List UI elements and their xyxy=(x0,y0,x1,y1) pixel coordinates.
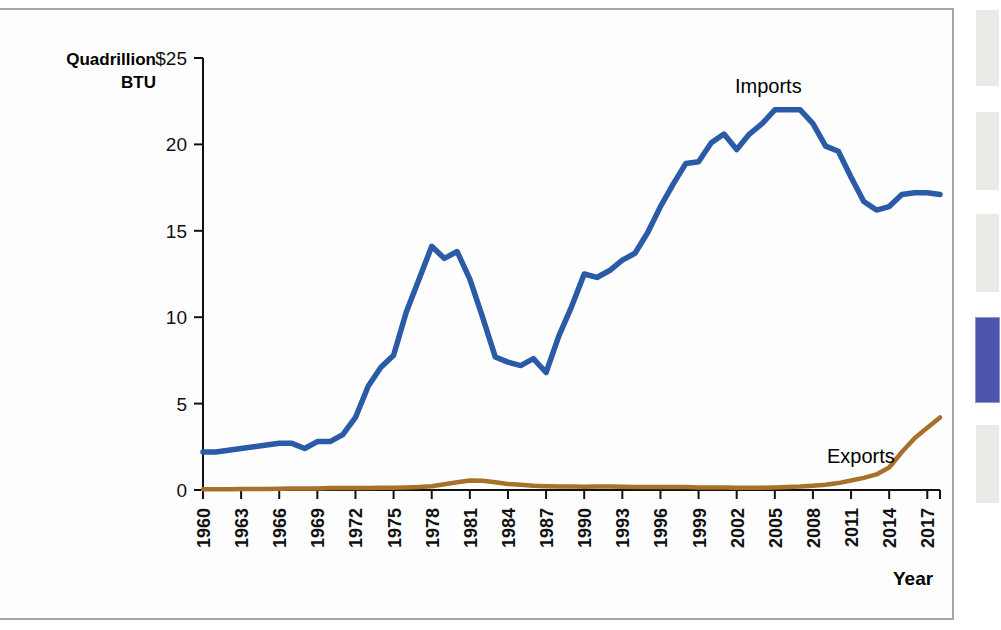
series-group xyxy=(203,110,940,489)
exports-label: Exports xyxy=(827,445,895,467)
x-tick-label: 1975 xyxy=(385,508,405,548)
x-tick-label: 2014 xyxy=(880,508,900,548)
series-annotation-group: ImportsExports xyxy=(735,75,895,467)
chart-svg: Quadrillion BTU 05101520$25 196019631966… xyxy=(0,0,958,630)
imports-label: Imports xyxy=(735,75,802,97)
y-tick-label: 15 xyxy=(166,221,187,242)
page-thumbnail-5[interactable] xyxy=(976,425,999,503)
axis-lines xyxy=(203,58,940,490)
y-axis-label-line2: BTU xyxy=(121,73,156,92)
x-tick-label: 2002 xyxy=(728,508,748,548)
x-tick-label: 1990 xyxy=(575,508,595,548)
x-tick-label: 1963 xyxy=(232,508,252,548)
x-tick-label: 2017 xyxy=(918,508,938,548)
y-axis-label-line1: Quadrillion xyxy=(66,50,156,69)
x-tick-label: 2008 xyxy=(804,508,824,548)
x-tick-label: 1960 xyxy=(194,508,214,548)
x-tick-label: 1981 xyxy=(461,508,481,548)
x-tick-label: 1996 xyxy=(651,508,671,548)
x-tick-label: 1969 xyxy=(308,508,328,548)
page-thumbnail-1[interactable] xyxy=(976,10,999,86)
energy-imports-exports-chart: Quadrillion BTU 05101520$25 196019631966… xyxy=(0,0,958,630)
y-tick-label: $25 xyxy=(155,48,187,69)
x-tick-label: 1993 xyxy=(613,508,633,548)
x-tick-label: 2011 xyxy=(842,508,862,547)
y-tick-label: 20 xyxy=(166,134,187,155)
page-thumbnail-4[interactable] xyxy=(975,317,1000,403)
series-line-imports xyxy=(203,110,940,452)
x-axis-title: Year xyxy=(893,568,934,589)
thumbnail-strip xyxy=(968,0,1001,630)
x-tick-label: 1987 xyxy=(537,508,557,548)
x-tick-label: 1978 xyxy=(423,508,443,548)
page-thumbnail-2[interactable] xyxy=(976,112,999,190)
x-tick-label: 1972 xyxy=(346,508,366,548)
x-tick-label: 2005 xyxy=(766,508,786,548)
y-tick-label: 10 xyxy=(166,307,187,328)
x-tick-label: 1999 xyxy=(690,508,710,548)
y-tick-label: 5 xyxy=(176,394,187,415)
x-tick-label: 1984 xyxy=(499,508,519,548)
y-tick-label: 0 xyxy=(176,480,187,501)
x-axis-tick-group: 1960196319661969197219751978198119841987… xyxy=(194,490,940,548)
x-tick-label: 1966 xyxy=(270,508,290,548)
page-thumbnail-3[interactable] xyxy=(976,214,999,292)
y-axis-tick-group: 05101520$25 xyxy=(155,48,203,501)
